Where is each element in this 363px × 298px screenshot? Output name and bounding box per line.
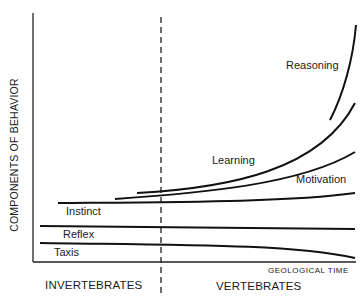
reasoning-label: Reasoning <box>286 60 339 71</box>
y-axis-label: COMPONENTS OF BEHAVIOR <box>8 78 20 232</box>
taxis-curve <box>40 243 355 258</box>
taxis-label: Taxis <box>54 247 79 258</box>
y-axis-label-container: COMPONENTS OF BEHAVIOR <box>2 60 26 250</box>
instinct-curve <box>58 193 355 203</box>
reflex-label: Reflex <box>63 229 94 240</box>
motivation-label: Motivation <box>296 174 346 185</box>
reasoning-curve <box>330 25 356 120</box>
invertebrates-label: INVERTEBRATES <box>45 280 142 292</box>
instinct-label: Instinct <box>66 206 101 217</box>
x-axis-label: GEOLOGICAL TIME <box>268 267 349 275</box>
vertebrates-label: VERTEBRATES <box>216 281 302 293</box>
learning-label: Learning <box>212 155 255 166</box>
